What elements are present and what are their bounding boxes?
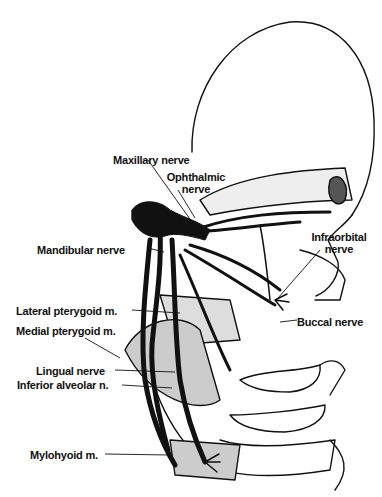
upper-teeth: [240, 365, 320, 392]
label-medial-pterygoid: Medial pterygoid m.: [16, 325, 116, 337]
label-ophthalmic-nerve-line2: nerve: [162, 183, 230, 195]
label-mandibular-nerve: Mandibular nerve: [37, 244, 125, 256]
label-ophthalmic-nerve-line1: Ophthalmic: [162, 171, 230, 183]
orbit: [329, 177, 346, 204]
label-infraorbital-nerve-line1: Infraorbital: [306, 231, 372, 243]
lower-teeth: [230, 405, 325, 432]
label-buccal-nerve: Buccal nerve: [297, 316, 363, 328]
label-mylohyoid: Mylohyoid m.: [30, 449, 98, 461]
label-infraorbital-nerve-line2: nerve: [306, 243, 372, 255]
label-lingual-nerve: Lingual nerve: [36, 365, 105, 377]
label-inferior-alveolar-nerve: Inferior alveolar n.: [17, 379, 108, 391]
trigeminal-ganglion: [132, 202, 210, 240]
label-maxillary-nerve: Maxillary nerve: [113, 154, 190, 166]
label-lateral-pterygoid: Lateral pterygoid m.: [16, 305, 117, 317]
